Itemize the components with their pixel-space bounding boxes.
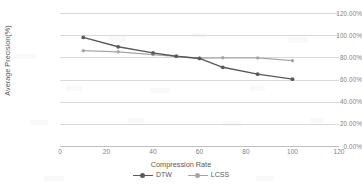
xtick-label-40: 40: [138, 148, 168, 156]
chart-legend: DTW LCSS: [0, 171, 362, 179]
series-layer: [60, 13, 339, 146]
data-point: [256, 72, 260, 76]
data-point: [81, 35, 85, 39]
series-lcss: [82, 49, 295, 62]
xtick-label-100: 100: [278, 148, 308, 156]
line-chart: 120.00% 100.00% 80.00% 60.00% 40.00% 20.…: [0, 0, 362, 188]
ytick-label-80: 80.00%: [306, 54, 362, 61]
xtick-label-0: 0: [45, 148, 75, 156]
ytick-label-20: 20.00%: [306, 120, 362, 127]
data-point: [256, 56, 259, 59]
data-point: [82, 49, 85, 52]
ytick-label-100: 100.00%: [306, 32, 362, 39]
legend-line-marker-icon: [133, 172, 153, 179]
data-point: [221, 56, 224, 59]
data-point: [291, 59, 294, 62]
y-axis-title: Average Precision(%): [3, 0, 12, 131]
gridline-0: [60, 146, 339, 147]
x-axis-title: Compression Rate: [0, 160, 362, 169]
ytick-label-120: 120.00%: [306, 10, 362, 17]
data-point: [221, 65, 225, 69]
data-point: [198, 57, 202, 61]
plot-area: [60, 13, 339, 146]
legend-item-dtw[interactable]: DTW: [133, 171, 172, 179]
ytick-label-60: 60.00%: [306, 76, 362, 83]
xtick-label-20: 20: [92, 148, 122, 156]
legend-item-lcss[interactable]: LCSS: [188, 171, 229, 179]
legend-label-lcss: LCSS: [211, 171, 229, 179]
xtick-label-60: 60: [185, 148, 215, 156]
data-point: [116, 50, 119, 53]
legend-label-dtw: DTW: [156, 171, 172, 179]
xtick-label-120: 120: [324, 148, 354, 156]
legend-line-marker-icon: [188, 172, 208, 179]
ytick-label-40: 40.00%: [306, 98, 362, 105]
data-point: [174, 54, 178, 58]
data-point: [291, 77, 295, 81]
xtick-label-80: 80: [231, 148, 261, 156]
data-point: [151, 51, 155, 55]
data-point: [116, 45, 120, 49]
